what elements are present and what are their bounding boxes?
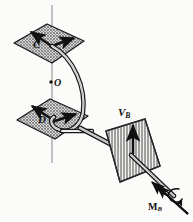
label-mb-sub: B [157,205,162,212]
label-point-c: C [33,39,40,50]
point-o-marker [49,80,52,83]
label-point-o: O [54,78,61,88]
figure-canvas: C O D VB MB [0,0,193,222]
label-shear-force-vb: VB [118,107,130,119]
label-vb-sub: B [125,111,130,120]
label-moment-mb: MB [148,202,162,213]
label-point-d: D [38,114,46,125]
mechanics-diagram-svg [0,0,193,222]
